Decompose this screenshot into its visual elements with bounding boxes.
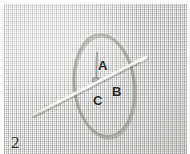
- label-b: B: [112, 85, 121, 98]
- scene-layer: [4, 4, 187, 154]
- figure-number: 2: [11, 134, 20, 151]
- sewing-needle: [33, 55, 148, 115]
- thread-tail: [95, 53, 97, 80]
- needle-shadow: [34, 59, 147, 117]
- label-a: A: [98, 59, 107, 72]
- figure-photo: A B C 2: [0, 0, 190, 154]
- label-c: C: [93, 94, 102, 107]
- fabric-background: A B C 2: [4, 4, 187, 154]
